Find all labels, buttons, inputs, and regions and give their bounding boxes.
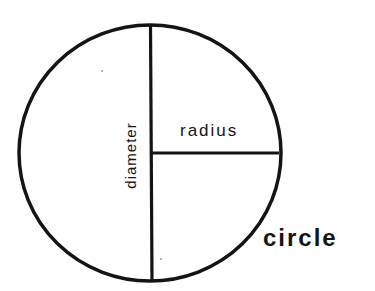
scan-speck (101, 70, 103, 72)
diameter-label: diameter (122, 116, 139, 196)
circle-label: circle (263, 224, 338, 252)
scan-speck (160, 258, 162, 260)
radius-label: radius (180, 121, 238, 141)
